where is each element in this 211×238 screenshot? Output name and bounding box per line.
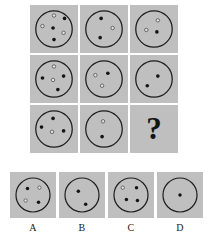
answer-option-D-figure[interactable] <box>157 172 203 218</box>
open-dot <box>52 14 55 17</box>
filled-dot <box>26 187 29 190</box>
filled-dot <box>98 36 102 40</box>
circle-outline <box>86 111 122 147</box>
open-dot <box>100 84 103 87</box>
circle-outline <box>136 11 172 47</box>
filled-dot <box>84 202 87 205</box>
filled-dot <box>56 88 60 92</box>
filled-dot <box>136 199 139 202</box>
open-dot <box>145 28 148 31</box>
open-dot <box>111 26 114 29</box>
answer-option-C-label: C <box>108 222 154 233</box>
filled-dot <box>99 17 103 21</box>
open-dot <box>121 186 124 189</box>
filled-dot <box>37 201 40 204</box>
filled-dot <box>63 17 67 21</box>
filled-dot <box>40 125 44 129</box>
answer-option-D[interactable]: D <box>157 172 203 233</box>
filled-dot <box>125 198 128 201</box>
filled-dot <box>100 135 104 139</box>
open-dot <box>51 78 54 81</box>
circle-outline <box>16 178 50 212</box>
open-dot <box>101 120 104 123</box>
matrix-cell-r2c3 <box>130 55 178 103</box>
filled-dot <box>62 129 66 133</box>
filled-dot <box>135 186 138 189</box>
open-dot <box>52 65 55 68</box>
open-dot <box>62 31 65 34</box>
answer-option-B-label: B <box>59 222 105 233</box>
matrix-cell-r1c1 <box>30 5 78 53</box>
matrix-grid: ? <box>30 5 178 157</box>
answer-option-A-label: A <box>10 222 56 233</box>
answer-option-C[interactable]: C <box>108 172 154 233</box>
answer-options-row: ABCD <box>10 172 204 233</box>
matrix-cell-r3c1 <box>30 105 78 153</box>
answer-option-A[interactable]: A <box>10 172 56 233</box>
matrix-cell-r2c2 <box>80 55 128 103</box>
circle-outline <box>136 61 172 97</box>
open-dot <box>156 19 159 22</box>
filled-dot <box>51 26 55 30</box>
circle-outline <box>86 11 122 47</box>
circle-outline <box>65 178 99 212</box>
filled-dot <box>62 74 66 78</box>
filled-dot <box>145 84 149 88</box>
answer-option-B-figure[interactable] <box>59 172 105 218</box>
matrix-cell-r2c1 <box>30 55 78 103</box>
answer-option-C-figure[interactable] <box>108 172 154 218</box>
filled-dot <box>156 74 160 78</box>
matrix-cell-r1c3 <box>130 5 178 53</box>
open-dot <box>50 130 53 133</box>
filled-dot <box>155 30 159 34</box>
circle-outline <box>114 178 148 212</box>
open-dot <box>41 24 44 27</box>
filled-dot <box>77 190 80 193</box>
answer-option-B[interactable]: B <box>59 172 105 233</box>
answer-option-A-figure[interactable] <box>10 172 56 218</box>
filled-dot <box>106 71 110 75</box>
matrix-cell-r3c2 <box>80 105 128 153</box>
question-mark: ? <box>130 105 178 153</box>
open-dot <box>24 199 27 202</box>
answer-option-D-label: D <box>157 222 203 233</box>
open-dot <box>94 73 97 76</box>
filled-dot <box>52 38 56 42</box>
matrix-cell-r3c3: ? <box>130 105 178 153</box>
circle-outline <box>86 61 122 97</box>
circle-outline <box>36 111 72 147</box>
filled-dot <box>178 193 181 196</box>
filled-dot <box>51 117 55 121</box>
filled-dot <box>41 76 45 80</box>
matrix-cell-r1c2 <box>80 5 128 53</box>
open-dot <box>38 186 41 189</box>
